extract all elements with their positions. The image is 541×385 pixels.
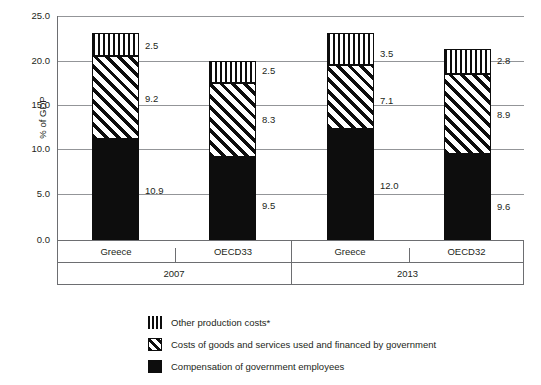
category-axis-right-edge bbox=[523, 240, 524, 263]
value-label-other-2007-oecd33: 2.5 bbox=[262, 65, 275, 76]
vertical-hatch-swatch-icon bbox=[148, 316, 162, 329]
category-divider-1 bbox=[175, 248, 176, 263]
category-label-2007-oecd33: OECD33 bbox=[175, 240, 291, 262]
category-divider-3 bbox=[409, 248, 410, 263]
segment-compensation bbox=[92, 139, 139, 240]
value-label-goods-2013-oecd32: 8.9 bbox=[497, 109, 510, 120]
value-label-goods-2007-oecd33: 8.3 bbox=[262, 114, 275, 125]
chart-legend: Other production costs* Costs of goods a… bbox=[148, 311, 436, 377]
legend-label-goods-and-services: Costs of goods and services used and fin… bbox=[171, 339, 436, 350]
category-axis-left-edge bbox=[57, 240, 58, 263]
value-label-compensation-2007-oecd33: 9.5 bbox=[262, 200, 275, 211]
segment-other-production-costs bbox=[444, 49, 491, 74]
segment-other-production-costs bbox=[327, 33, 374, 65]
y-axis-title: % of GDP bbox=[37, 58, 48, 178]
segment-compensation bbox=[327, 129, 374, 240]
solid-black-swatch-icon bbox=[148, 360, 162, 373]
legend-item-other-production-costs[interactable]: Other production costs* bbox=[148, 311, 436, 333]
value-label-compensation-2013-oecd32: 9.6 bbox=[497, 201, 510, 212]
segment-compensation bbox=[444, 154, 491, 240]
group-label-2007: 2007 bbox=[57, 263, 291, 284]
y-tick-15: 15.0 bbox=[2, 100, 50, 110]
value-label-other-2007-greece: 2.5 bbox=[145, 40, 158, 51]
legend-label-compensation: Compensation of government employees bbox=[171, 361, 344, 372]
value-label-goods-2007-greece: 9.2 bbox=[145, 93, 158, 104]
segment-compensation bbox=[209, 157, 256, 240]
group-axis-left-edge bbox=[57, 263, 58, 285]
category-label-2013-greece: Greece bbox=[291, 240, 409, 262]
segment-other-production-costs bbox=[92, 33, 139, 56]
value-label-compensation-2007-greece: 10.9 bbox=[145, 185, 164, 196]
value-label-goods-2013-greece: 7.1 bbox=[380, 95, 393, 106]
y-tick-5: 5.0 bbox=[2, 189, 50, 199]
category-label-2013-oecd32: OECD32 bbox=[409, 240, 524, 262]
segment-goods-and-services bbox=[92, 56, 139, 139]
legend-item-compensation[interactable]: Compensation of government employees bbox=[148, 355, 436, 377]
category-divider-2 bbox=[291, 240, 292, 263]
segment-goods-and-services bbox=[327, 65, 374, 129]
y-tick-10: 10.0 bbox=[2, 144, 50, 154]
value-label-compensation-2013-greece: 12.0 bbox=[380, 180, 399, 191]
segment-goods-and-services bbox=[444, 74, 491, 154]
y-tick-25: 25.0 bbox=[2, 11, 50, 21]
legend-item-goods-and-services[interactable]: Costs of goods and services used and fin… bbox=[148, 333, 436, 355]
value-label-other-2013-greece: 3.5 bbox=[380, 48, 393, 59]
category-label-2007-greece: Greece bbox=[57, 240, 175, 262]
legend-label-other-production-costs: Other production costs* bbox=[171, 317, 270, 328]
y-tick-0: 0.0 bbox=[2, 235, 50, 245]
segment-other-production-costs bbox=[209, 61, 256, 83]
segment-goods-and-services bbox=[209, 83, 256, 157]
stacked-bar-chart: % of GDP 25.0 20.0 15.0 10.0 5.0 0.0 2.5… bbox=[0, 0, 541, 385]
y-tick-20: 20.0 bbox=[2, 56, 50, 66]
group-axis-right-edge bbox=[523, 263, 524, 285]
diagonal-hatch-swatch-icon bbox=[148, 338, 162, 351]
group-label-2013: 2013 bbox=[291, 263, 524, 284]
category-axis-row: Greece OECD33 Greece OECD32 bbox=[57, 240, 524, 263]
value-label-other-2013-oecd32: 2.8 bbox=[497, 55, 510, 66]
group-axis-row: 2007 2013 bbox=[57, 263, 524, 285]
group-divider bbox=[291, 263, 292, 285]
